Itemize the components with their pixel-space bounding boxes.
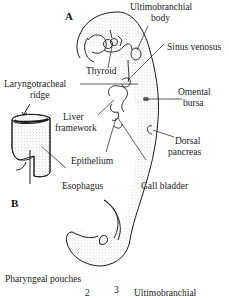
panel-a-label: A <box>65 10 73 22</box>
label-gall-bladder: Gall bladder <box>141 181 188 191</box>
label-esophagus: Esophagus <box>62 181 103 191</box>
label-laryngotracheal-2: ridge <box>30 90 50 100</box>
label-pouch-3: 3 <box>114 285 119 295</box>
label-omental-1: Omental <box>178 87 211 97</box>
panel-b-label: B <box>11 197 18 209</box>
esophagus-tube <box>12 104 50 184</box>
label-ultimobranchial-body-1: Ultimobranchial <box>130 2 192 12</box>
label-pouch-2: 2 <box>85 288 90 298</box>
label-omental-2: bursa <box>183 98 204 108</box>
label-ultimobranchial-bottom: Ultimobranchial <box>134 288 196 298</box>
label-dorsal-1: Dorsal <box>175 136 200 146</box>
bottom-curve <box>104 200 118 238</box>
label-liver-2: framework <box>55 123 97 133</box>
label-epithelium: Epithelium <box>71 156 113 166</box>
label-liver-1: Liver <box>63 112 84 122</box>
embryo-body <box>66 12 158 266</box>
label-pharyngeal-pouches: Pharyngeal pouches <box>5 274 81 284</box>
label-dorsal-2: pancreas <box>168 147 201 157</box>
leader-lines <box>42 26 182 168</box>
label-thyroid: Thyroid <box>86 66 117 76</box>
label-sinus-venosus: Sinus venosus <box>167 42 221 52</box>
label-ultimobranchial-body-2: body <box>151 13 170 23</box>
label-laryngotracheal-1: Laryngotracheal <box>4 79 66 89</box>
